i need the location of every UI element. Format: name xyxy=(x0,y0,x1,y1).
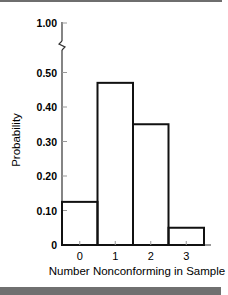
y-tick-label: 0.30 xyxy=(37,136,58,148)
x-axis-title: Number Nonconforming in Sample xyxy=(49,265,225,277)
x-tick-label: 2 xyxy=(148,250,154,262)
bar-2 xyxy=(133,124,169,245)
y-tick-label: 0.50 xyxy=(37,67,58,79)
y-tick-label: 0.40 xyxy=(37,101,58,113)
y-axis-title: Probability xyxy=(10,113,22,167)
bottom-border xyxy=(0,287,221,295)
axis-break-icon xyxy=(59,41,65,50)
x-tick-label: 3 xyxy=(183,250,189,262)
y-tick-label: 1.00 xyxy=(37,17,58,29)
bar-0 xyxy=(62,202,98,245)
y-tick-label: 0.20 xyxy=(37,170,58,182)
y-tick-label: 0.10 xyxy=(37,205,58,217)
x-tick-label: 0 xyxy=(77,250,83,262)
probability-histogram: 00.100.200.300.400.501.000123Number Nonc… xyxy=(0,0,228,295)
x-tick-label: 1 xyxy=(112,250,118,262)
y-tick-label: 0 xyxy=(51,239,57,251)
bar-1 xyxy=(98,83,134,245)
